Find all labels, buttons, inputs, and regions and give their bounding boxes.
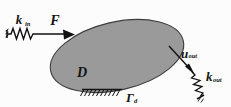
figure-canvas: k in F D u out k out Γ d: [0, 0, 231, 107]
input-load-group: [6, 29, 76, 40]
input-spring-label-base: k: [16, 12, 23, 27]
input-force-arrow-icon: [37, 30, 75, 40]
output-displacement-label-sub: out: [189, 52, 198, 59]
input-coil-spring-icon: [8, 29, 38, 40]
output-displacement-label: u out: [181, 46, 197, 61]
output-displacement-label-base: u: [181, 46, 188, 61]
boundary-label-sub: d: [134, 97, 138, 104]
output-spring-label-base: k: [206, 69, 213, 84]
output-ground-anchor-icon: [197, 95, 204, 103]
input-force-label: F: [49, 13, 60, 28]
output-coil-spring-icon: [192, 72, 204, 96]
input-spring-label-sub: in: [25, 20, 31, 27]
output-spring-label: k out: [206, 69, 222, 84]
design-domain-label: D: [76, 65, 87, 80]
input-spring-label: k in: [16, 12, 31, 27]
boundary-label: Γ d: [125, 90, 138, 105]
boundary-label-base: Γ: [125, 90, 134, 105]
mechanism-figure: k in F D u out k out Γ d: [0, 0, 231, 107]
output-spring-label-sub: out: [213, 76, 222, 83]
